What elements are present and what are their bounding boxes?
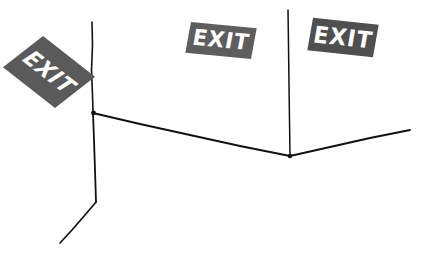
exit-sign-scene: EXIT EXIT EXIT [0, 0, 432, 262]
right-junction-line-stroke [290, 130, 410, 156]
left-lower-edge-stroke [93, 113, 96, 202]
right-vertical-edge-stroke [288, 10, 290, 156]
exit-sign-center: EXIT [185, 22, 256, 59]
exit-sign-right: EXIT [307, 18, 378, 57]
left-floor-diagonal-stroke [60, 202, 96, 243]
left-vertical-edge-stroke [92, 22, 94, 113]
center-junction-line-stroke [93, 113, 290, 156]
exit-sign-center-label: EXIT [191, 27, 251, 54]
exit-sign-right-label: EXIT [312, 23, 375, 52]
right-corner-junction-node [288, 154, 292, 158]
left-corner-junction-node [91, 111, 96, 116]
